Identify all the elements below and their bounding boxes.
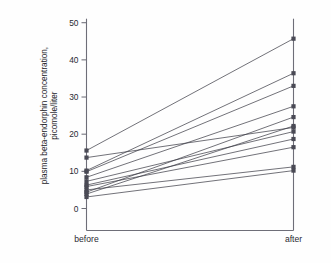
y-tick-label-0: 0 xyxy=(74,204,79,214)
data-point-before xyxy=(84,155,88,159)
data-point-after xyxy=(291,168,295,172)
data-point-before xyxy=(84,179,88,183)
data-point-after xyxy=(291,115,295,119)
y-tick-label-10: 10 xyxy=(69,166,79,176)
data-point-after xyxy=(291,104,295,108)
data-point-before xyxy=(84,170,88,174)
series-lines xyxy=(87,39,294,197)
y-tick-label-30: 30 xyxy=(69,92,79,102)
data-point-after xyxy=(291,124,295,128)
y-axis-ticks: 01020304050 xyxy=(69,18,86,214)
slope-line xyxy=(87,132,294,182)
slope-line xyxy=(87,73,294,170)
slope-chart: plasma beta-endorphin concentration,pico… xyxy=(0,0,331,263)
y-axis-title-line-1: plasma beta-endorphin concentration, xyxy=(40,47,49,184)
data-point-after xyxy=(291,137,295,141)
data-point-before xyxy=(84,148,88,152)
slope-line xyxy=(87,117,294,192)
slope-line xyxy=(87,86,294,172)
y-tick-label-50: 50 xyxy=(69,18,79,28)
data-point-after xyxy=(291,37,295,41)
data-point-after xyxy=(291,71,295,75)
x-axis-labels: beforeafter xyxy=(74,234,302,244)
axis-lines xyxy=(87,19,294,231)
x-tick-label-before: before xyxy=(74,234,99,244)
data-point-after xyxy=(291,145,295,149)
x-tick-label-after: after xyxy=(285,234,302,244)
y-tick-label-20: 20 xyxy=(69,129,79,139)
data-point-after xyxy=(291,165,295,169)
data-point-before xyxy=(84,195,88,199)
y-axis-title: plasma beta-endorphin concentration,pico… xyxy=(40,47,58,184)
data-point-after xyxy=(291,129,295,133)
y-tick-label-40: 40 xyxy=(69,55,79,65)
figure-container: plasma beta-endorphin concentration,pico… xyxy=(0,0,331,263)
data-point-before xyxy=(84,175,88,179)
y-axis-title-line-2: picomole/liter xyxy=(50,91,59,140)
slope-line xyxy=(87,39,294,151)
data-point-after xyxy=(291,84,295,88)
